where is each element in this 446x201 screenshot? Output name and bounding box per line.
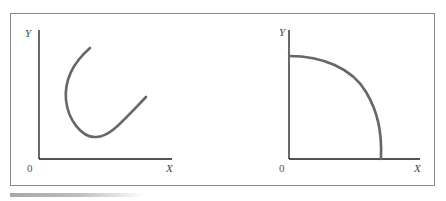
decorative-gradient-bar bbox=[10, 193, 145, 197]
right-y-axis-label: Y bbox=[279, 27, 285, 38]
right-panel-curve bbox=[289, 56, 381, 159]
left-panel-curve bbox=[66, 48, 146, 137]
right-x-axis-label: X bbox=[414, 163, 421, 174]
left-origin-label: 0 bbox=[27, 163, 33, 174]
figure-graphics bbox=[0, 0, 446, 201]
left-y-axis-label: Y bbox=[25, 28, 31, 39]
right-origin-label: 0 bbox=[279, 163, 285, 174]
right-panel-axes bbox=[289, 30, 420, 159]
left-panel-axes bbox=[39, 30, 172, 159]
left-x-axis-label: X bbox=[166, 163, 173, 174]
